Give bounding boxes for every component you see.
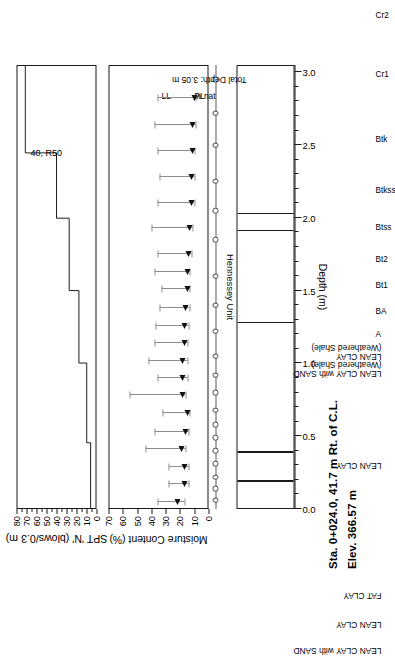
depth-minor-tick — [294, 188, 298, 189]
depth-tick — [294, 435, 301, 436]
depth-minor-tick — [294, 406, 298, 407]
moisture-range-bar — [129, 394, 185, 395]
moisture-pl-cap — [187, 357, 188, 364]
depth-minor-tick — [294, 100, 298, 101]
hennessey-unit-marker — [212, 237, 217, 242]
depth-minor-tick — [294, 115, 298, 116]
moisture-wnat-marker — [184, 286, 190, 292]
moisture-wnat-marker — [189, 148, 195, 154]
spt-tick — [66, 509, 67, 514]
depth-minor-tick — [294, 333, 298, 334]
moisture-ll-cap — [157, 498, 158, 505]
moisture-ll-cap — [162, 409, 163, 416]
hennessey-unit-marker — [212, 435, 217, 440]
moisture-ll-cap — [157, 374, 158, 381]
moisture-wnat-marker — [184, 410, 190, 416]
depth-minor-tick — [294, 246, 298, 247]
depth-minor-tick — [294, 130, 298, 131]
spt-minor-tick — [81, 509, 82, 512]
spt-minor-tick — [71, 509, 72, 512]
moisture-ll-cap — [148, 357, 149, 364]
moisture-legend-label: w nat — [195, 91, 215, 101]
spt-minor-tick — [61, 509, 62, 512]
depth-minor-tick — [294, 86, 298, 87]
spt-tick — [36, 509, 37, 514]
moisture-tick — [208, 509, 209, 514]
total-depth-label: Total Depth: 3.05 m — [171, 75, 246, 85]
depth-minor-tick — [294, 275, 298, 276]
spt-tick — [86, 509, 87, 514]
moisture-wnat-marker — [182, 305, 188, 311]
depth-tick-label: 0.0 — [302, 504, 315, 515]
hennessey-unit-marker — [212, 486, 217, 491]
hennessey-unit-marker — [212, 208, 217, 213]
moisture-ll-cap — [157, 95, 158, 102]
moisture-wnat-marker — [174, 499, 180, 505]
hennessey-unit-label: Cr2 — [375, 11, 388, 178]
moisture-tick-label: 70 — [103, 516, 113, 526]
spt-tick — [26, 509, 27, 514]
hennessey-unit-marker — [212, 407, 217, 412]
spt-minor-tick — [21, 509, 22, 512]
spt-tick — [96, 509, 97, 514]
spt-axis-title: SPT 'N' (blows/0.3 m) — [5, 533, 107, 545]
depth-tick-label: 3.0 — [302, 67, 315, 78]
moisture-ll-cap — [157, 200, 158, 207]
moisture-wnat-marker — [188, 174, 194, 180]
moisture-ll-cap — [159, 174, 160, 181]
depth-tick — [294, 290, 301, 291]
moisture-ll-cap — [145, 446, 146, 453]
moisture-tick-label: 10 — [189, 516, 199, 526]
moisture-ll-cap — [129, 392, 130, 399]
moisture-pl-cap — [189, 305, 190, 312]
hennessey-unit-marker — [212, 110, 217, 115]
moisture-tick-label: 50 — [132, 516, 142, 526]
spt-tick-label: 50 — [41, 516, 51, 526]
depth-minor-tick — [294, 261, 298, 262]
hennessey-unit-marker — [212, 353, 217, 358]
depth-minor-tick — [294, 377, 298, 378]
moisture-ll-cap — [161, 286, 162, 293]
soil-layer-divider — [237, 213, 293, 214]
hennessey-unit-marker — [212, 273, 217, 278]
moisture-pl-cap — [188, 322, 189, 329]
hennessey-unit-marker — [212, 461, 217, 466]
moisture-tick-label: 20 — [174, 516, 184, 526]
hennessey-unit-marker — [212, 142, 217, 147]
depth-minor-tick — [294, 392, 298, 393]
hennessey-unit-marker — [212, 303, 217, 308]
moisture-tick — [137, 509, 138, 514]
spt-tick-label: 10 — [81, 516, 91, 526]
moisture-tick-label: 30 — [160, 516, 170, 526]
soil-layer-divider — [237, 451, 293, 452]
moisture-tick — [108, 509, 109, 514]
spt-minor-tick — [51, 509, 52, 512]
spt-minor-tick — [41, 509, 42, 512]
moisture-wnat-marker — [179, 375, 185, 381]
spt-tick-label: 80 — [11, 516, 21, 526]
depth-tick-label: 2.0 — [302, 212, 315, 223]
hennessey-unit-marker — [212, 372, 217, 377]
depth-tick — [294, 71, 301, 72]
moisture-tick-label: 40 — [146, 516, 156, 526]
soil-layer-divider — [237, 230, 293, 231]
depth-tick-label: 2.5 — [302, 140, 315, 151]
moisture-panel — [108, 65, 208, 509]
hennessey-unit-marker — [212, 390, 217, 395]
depth-tick-label: 1.0 — [302, 358, 315, 369]
moisture-pl-cap — [187, 374, 188, 381]
moisture-tick-label: 60 — [117, 516, 127, 526]
moisture-ll-cap — [157, 251, 158, 258]
soil-profile-panel — [236, 65, 294, 509]
depth-minor-tick — [294, 348, 298, 349]
moisture-legend-label: LL — [161, 91, 170, 101]
depth-tick-label: 1.5 — [302, 285, 315, 296]
hennessey-unit-marker — [212, 498, 217, 503]
moisture-wnat-marker — [181, 340, 187, 346]
moisture-tick — [165, 509, 166, 514]
moisture-ll-cap — [168, 481, 169, 488]
hennessey-unit-title: Hennessey Unit — [224, 65, 235, 509]
moisture-wnat-marker — [179, 358, 185, 364]
